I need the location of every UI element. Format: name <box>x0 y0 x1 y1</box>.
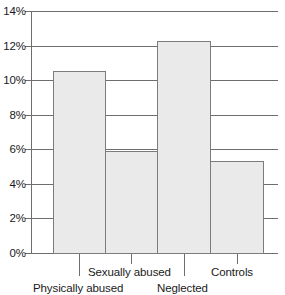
x-tick-mark-sexually-abused <box>131 254 132 264</box>
x-label-physically-abused: Physically abused <box>33 283 123 295</box>
x-label-sexually-abused: Sexually abused <box>88 267 171 279</box>
x-axis-labels: Physically abused Sexually abused Neglec… <box>0 0 285 295</box>
x-tick-mark-controls <box>237 254 238 264</box>
x-tick-mark-neglected <box>184 254 185 276</box>
x-label-controls: Controls <box>211 267 253 279</box>
x-tick-mark-physically-abused <box>79 254 80 276</box>
bar-chart: 14% 12% 10% 8% 6% 4% 2% 0% <box>0 0 285 295</box>
x-label-neglected: Neglected <box>157 283 208 295</box>
